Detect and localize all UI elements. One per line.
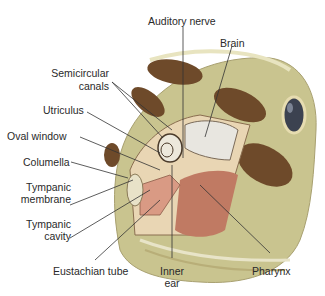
label-columella: Columella [23, 156, 70, 168]
label-pharynx: Pharynx [252, 265, 291, 277]
skin-spot [104, 143, 120, 167]
label-utriculus: Utriculus [43, 104, 84, 116]
frog-head-illustration [0, 0, 325, 296]
label-semicircular-canals-line1: Semicircular [47, 67, 109, 79]
eye [283, 97, 305, 133]
label-auditory-nerve: Auditory nerve [148, 15, 216, 27]
label-inner-ear-line1: Inner [157, 265, 187, 277]
label-tympanic-cavity-line2: cavity [10, 230, 71, 242]
label-semicircular-canals-line2: canals [47, 80, 109, 92]
tympanic-membrane [127, 174, 143, 206]
label-tympanic-cavity-line1: Tympanic [10, 218, 71, 230]
label-oval-window: Oval window [7, 130, 67, 142]
label-inner-ear-line2: ear [157, 277, 187, 289]
frog-ear-diagram: Auditory nerve Brain Semicircular canals… [0, 0, 325, 296]
label-tympanic-membrane-line1: Tympanic [10, 181, 71, 193]
label-brain: Brain [220, 37, 245, 49]
label-tympanic-membrane-line2: membrane [10, 193, 71, 205]
label-eustachian-tube: Eustachian tube [53, 265, 128, 277]
